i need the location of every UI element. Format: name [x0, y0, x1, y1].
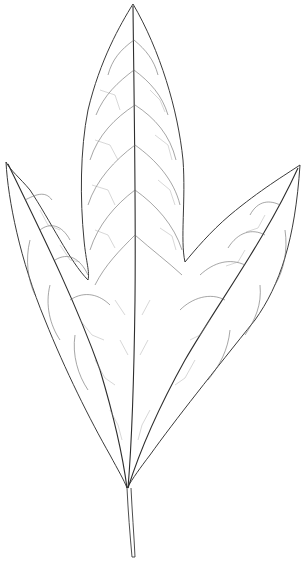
leaf-drawing	[0, 0, 305, 571]
petiole	[127, 488, 135, 557]
leaf-illustration	[0, 0, 305, 571]
